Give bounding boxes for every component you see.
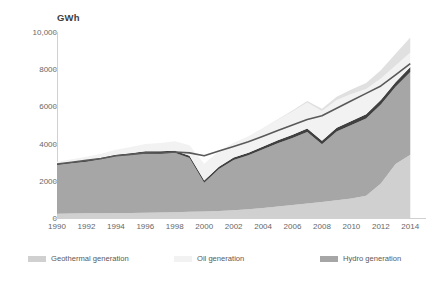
x-axis-tick-label: 2014 xyxy=(401,222,419,231)
x-axis-tick-label: 1994 xyxy=(107,222,125,231)
legend-item-label: Oil generation xyxy=(197,255,244,263)
legend-item[interactable]: Oil generation xyxy=(174,255,320,263)
plot-area xyxy=(57,32,425,218)
legend-swatch-icon xyxy=(320,256,338,262)
x-axis-tick-label: 2012 xyxy=(372,222,390,231)
x-axis-tick-label: 1996 xyxy=(136,222,154,231)
x-axis-tick-label: 2000 xyxy=(195,222,213,231)
x-axis-line xyxy=(57,218,426,219)
y-axis-tick-label: 6000 xyxy=(5,102,57,111)
y-axis: 0200040006000800010,000 xyxy=(0,0,57,284)
y-axis-tick-label: 10,000 xyxy=(5,28,57,37)
x-axis-tick-label: 2004 xyxy=(254,222,272,231)
legend-item-label: Hydro generation xyxy=(343,255,401,263)
legend-item[interactable]: Geothermal generation xyxy=(28,255,174,263)
x-axis-tick-label: 2010 xyxy=(342,222,360,231)
y-axis-tick-label: 8000 xyxy=(5,65,57,74)
y-axis-unit-label: GWh xyxy=(57,12,80,23)
chart-legend: Geothermal generationOil generationHydro… xyxy=(28,252,428,266)
x-axis-tick-label: 1990 xyxy=(48,222,66,231)
x-axis-tick-label: 2008 xyxy=(313,222,331,231)
legend-item-label: Geothermal generation xyxy=(51,255,129,263)
legend-swatch-icon xyxy=(28,256,46,262)
x-axis-tick-label: 1992 xyxy=(78,222,96,231)
x-axis-tick-label: 2002 xyxy=(225,222,243,231)
y-axis-tick-label: 4000 xyxy=(5,139,57,148)
legend-item[interactable]: Hydro generation xyxy=(320,255,437,263)
y-axis-tick-label: 2000 xyxy=(5,176,57,185)
x-axis-tick-label: 2006 xyxy=(284,222,302,231)
chart-container: GWh 0200040006000800010,000 Geothermal g… xyxy=(0,0,437,284)
x-axis-tick-label: 1998 xyxy=(166,222,184,231)
legend-swatch-icon xyxy=(174,256,192,262)
stacked-area-plot xyxy=(57,32,425,218)
